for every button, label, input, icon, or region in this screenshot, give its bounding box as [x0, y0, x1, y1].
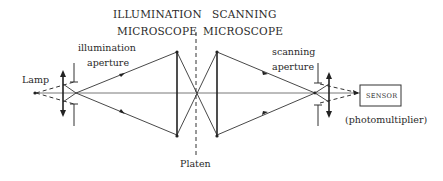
sensor-label: SENSOR: [366, 92, 398, 100]
illumination-aperture-label-line2: aperture: [87, 57, 129, 68]
scanning-aperture-label-line2: aperture: [272, 61, 314, 72]
scanning-microscope-title-line2: MICROSCOPE: [203, 25, 283, 37]
photomultiplier-label: (photomultiplier): [345, 114, 427, 125]
sensor-box: SENSOR: [360, 85, 401, 106]
illumination-lens: [175, 50, 178, 137]
scanning-lens: [215, 50, 218, 137]
platen-label: Platen: [180, 158, 211, 169]
lamp-label: Lamp: [22, 74, 49, 85]
sensor-dashed-rays: [315, 84, 359, 103]
confocal-scanner-diagram: ILLUMINATION MICROSCOPE SCANNING MICROSC…: [0, 0, 443, 181]
scanning-microscope-title-line1: SCANNING: [212, 8, 277, 20]
illumination-aperture-label-line1: illumination: [78, 42, 136, 53]
condenser-lens: [60, 70, 66, 117]
sensor-lens: [326, 72, 332, 118]
illumination-microscope-title-line1: ILLUMINATION: [113, 8, 202, 20]
scanning-aperture-label-line1: scanning: [272, 46, 315, 57]
illumination-microscope-title-line2: MICROSCOPE: [117, 25, 197, 37]
